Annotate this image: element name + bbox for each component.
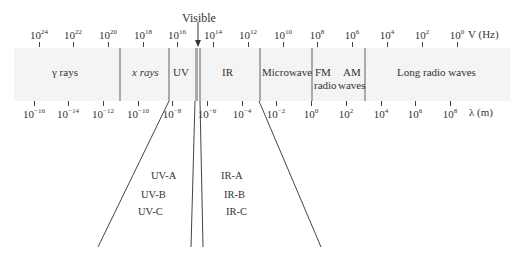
zoom-lines: [0, 0, 516, 263]
visible-arrow-icon: [195, 40, 201, 47]
